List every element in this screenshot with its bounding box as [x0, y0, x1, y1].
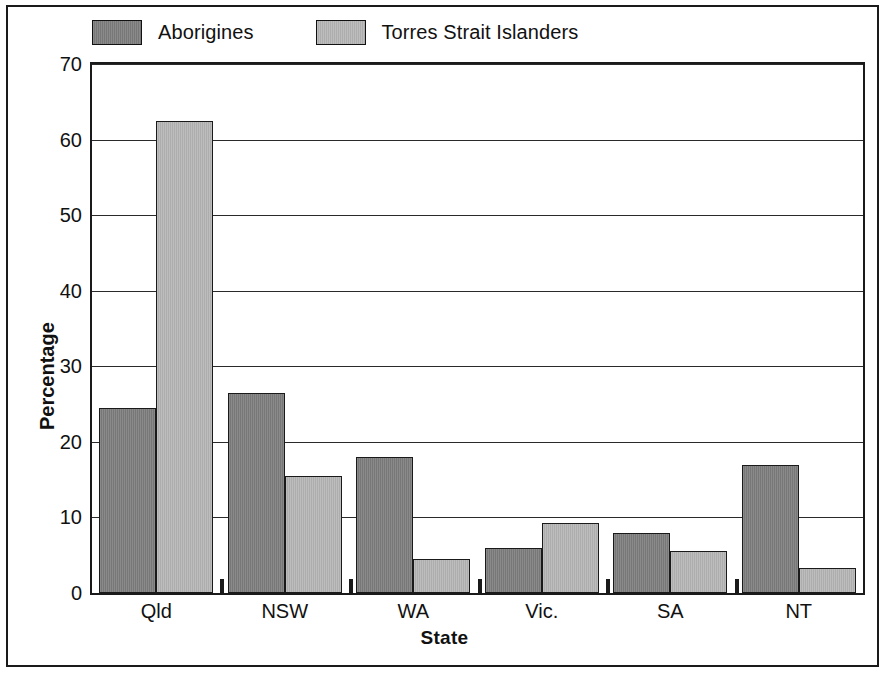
bar-nt-torres-strait-islanders	[799, 568, 856, 593]
legend-entry-torres-strait-islanders: Torres Strait Islanders	[316, 20, 579, 45]
x-axis-labels: QldNSWWAVic.SANT	[92, 600, 863, 623]
legend-label-torres-strait-islanders: Torres Strait Islanders	[382, 21, 579, 44]
x-tick-label-vic: Vic.	[478, 600, 607, 623]
x-tickmark-4	[606, 579, 610, 593]
legend-label-aborigines: Aborigines	[158, 21, 254, 44]
y-tick-label-40: 40	[38, 279, 82, 302]
x-tickmark-3	[478, 579, 482, 593]
legend-entry-aborigines: Aborigines	[92, 20, 254, 45]
bar-wa-aborigines	[356, 457, 413, 593]
legend-swatch-torres-strait-islanders	[316, 20, 366, 45]
x-tick-label-nt: NT	[735, 600, 864, 623]
y-tick-label-10: 10	[38, 506, 82, 529]
x-tickmark-5	[735, 579, 739, 593]
bar-wa-torres-strait-islanders	[413, 559, 470, 593]
bar-qld-aborigines	[99, 408, 156, 593]
bar-nsw-torres-strait-islanders	[285, 476, 342, 593]
bar-group-vic	[478, 64, 607, 593]
chart-legend: Aborigines Torres Strait Islanders	[92, 20, 578, 45]
plot-area	[92, 64, 863, 593]
bar-group-nsw	[221, 64, 350, 593]
y-tick-label-70: 70	[38, 53, 82, 76]
bar-sa-aborigines	[613, 533, 670, 593]
bar-qld-torres-strait-islanders	[156, 121, 213, 593]
y-tick-label-30: 30	[38, 355, 82, 378]
bar-group-wa	[349, 64, 478, 593]
bar-group-sa	[606, 64, 735, 593]
x-tick-label-nsw: NSW	[221, 600, 350, 623]
bar-group-qld	[92, 64, 221, 593]
y-tick-label-50: 50	[38, 204, 82, 227]
x-tick-label-sa: SA	[606, 600, 735, 623]
x-tickmark-1	[220, 579, 224, 593]
x-tick-label-wa: WA	[349, 600, 478, 623]
bar-nt-aborigines	[742, 465, 799, 593]
y-tick-label-20: 20	[38, 430, 82, 453]
x-tickmark-2	[349, 579, 353, 593]
bar-groups	[92, 64, 863, 593]
legend-swatch-aborigines	[92, 20, 142, 45]
bar-vic-aborigines	[485, 548, 542, 593]
bar-sa-torres-strait-islanders	[670, 551, 727, 593]
chart-figure: Aborigines Torres Strait Islanders Perce…	[0, 0, 889, 678]
y-tick-label-0: 0	[34, 582, 82, 605]
bar-nsw-aborigines	[228, 393, 285, 593]
y-tick-label-60: 60	[38, 128, 82, 151]
x-tick-label-qld: Qld	[92, 600, 221, 623]
y-axis-ticks: 10203040506070	[34, 64, 82, 593]
bar-group-nt	[735, 64, 864, 593]
bar-vic-torres-strait-islanders	[542, 523, 599, 593]
x-axis-title: State	[0, 627, 889, 649]
